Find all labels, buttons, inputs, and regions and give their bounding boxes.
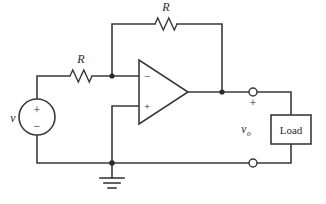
- circuit-schematic-canvas: + − v R R − + Load: [0, 0, 326, 204]
- junction-dot-ground-node: [109, 160, 115, 166]
- output-terminal-positive: [249, 88, 257, 96]
- voltage-source-plus-sign: +: [34, 103, 41, 117]
- output-terminals: +: [249, 88, 257, 167]
- wire-terminal-positive-to-load: [253, 92, 291, 115]
- output-terminal-plus-sign: +: [250, 96, 257, 110]
- feedback-resistor-zigzag: [155, 18, 177, 30]
- junction-dot-inverting-node: [109, 73, 114, 78]
- ground-symbol: [100, 163, 124, 188]
- circuit-diagram-figure: + − v R R − + Load: [0, 0, 326, 204]
- load-box: Load: [271, 115, 311, 144]
- input-resistor: R: [70, 52, 92, 82]
- voltage-source-minus-sign: −: [34, 119, 41, 133]
- input-resistor-label: R: [76, 52, 85, 66]
- wire-feedback-right-leg: [177, 24, 222, 92]
- output-voltage-subscript: o: [247, 129, 251, 138]
- opamp-inverting-input-sign: −: [144, 70, 150, 82]
- svg-text:vo: vo: [241, 123, 251, 138]
- feedback-resistor-label: R: [161, 0, 170, 14]
- wire-noninverting-input-to-ground: [112, 106, 139, 163]
- input-resistor-zigzag: [70, 70, 92, 82]
- opamp-noninverting-input-sign: +: [144, 100, 150, 112]
- wire-source-to-input-resistor: [37, 76, 70, 99]
- operational-amplifier: − +: [139, 60, 188, 124]
- wire-load-to-terminal-negative: [253, 144, 291, 163]
- feedback-resistor: R: [155, 0, 177, 30]
- output-terminal-negative: [249, 159, 257, 167]
- wire-source-to-ground-rail: [37, 135, 112, 163]
- junction-dot-output-node: [219, 89, 224, 94]
- voltage-source-label: v: [10, 111, 16, 125]
- independent-voltage-source: + − v: [10, 99, 55, 135]
- load-label: Load: [280, 124, 303, 136]
- output-voltage-label: vo: [241, 123, 251, 138]
